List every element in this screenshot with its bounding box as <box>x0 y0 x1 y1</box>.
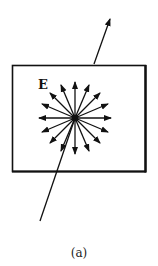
trajectory-line-lower <box>40 118 75 221</box>
field-diagram <box>0 0 158 266</box>
field-label-e: E <box>38 77 48 92</box>
figure-caption: (a) <box>0 246 158 260</box>
trajectory-arrow-upper <box>94 19 110 64</box>
